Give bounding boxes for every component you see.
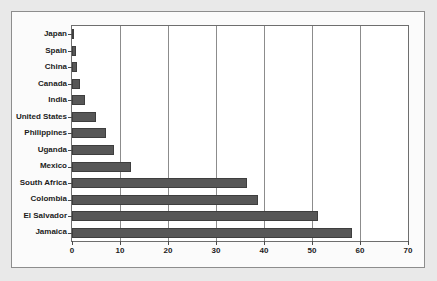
- bar: [72, 95, 85, 105]
- x-tick-label-50: 50: [308, 246, 317, 255]
- bar: [72, 228, 352, 238]
- category-label: United States: [16, 109, 67, 126]
- bar-row: El Salvador: [72, 208, 408, 225]
- category-label: El Salvador: [23, 208, 67, 225]
- bar-row: Philippines: [72, 125, 408, 142]
- bar: [72, 79, 80, 89]
- bar-row: South Africa: [72, 175, 408, 192]
- x-tick-label-60: 60: [356, 246, 365, 255]
- x-tick-label-10: 10: [116, 246, 125, 255]
- chart-figure: JapanSpainChinaCanadaIndiaUnited StatesP…: [11, 11, 425, 268]
- bar-row: China: [72, 59, 408, 76]
- bar-row: Canada: [72, 76, 408, 93]
- bar: [72, 62, 77, 72]
- x-tick-label-40: 40: [260, 246, 269, 255]
- bar: [72, 195, 258, 205]
- category-label: Japan: [44, 26, 67, 43]
- category-label: Philippines: [24, 125, 67, 142]
- x-tick-label-70: 70: [404, 246, 413, 255]
- bar: [72, 145, 114, 155]
- category-label: India: [48, 92, 67, 109]
- x-tick-20: [168, 241, 169, 245]
- category-label: Jamaica: [35, 224, 67, 241]
- category-label: Canada: [38, 76, 67, 93]
- bar-row: Colombia: [72, 191, 408, 208]
- bar-row: India: [72, 92, 408, 109]
- x-tick-50: [312, 241, 313, 245]
- x-tick-label-0: 0: [70, 246, 74, 255]
- category-label: South Africa: [20, 175, 67, 192]
- bar: [72, 211, 318, 221]
- bar-row: Jamaica: [72, 224, 408, 241]
- category-label: Colombia: [31, 191, 67, 208]
- bar-row: United States: [72, 109, 408, 126]
- category-label: China: [45, 59, 67, 76]
- x-tick-10: [120, 241, 121, 245]
- bar-row: Japan: [72, 26, 408, 43]
- bar: [72, 46, 76, 56]
- x-tick-70: [408, 241, 409, 245]
- bar-row: Spain: [72, 43, 408, 60]
- x-tick-label-30: 30: [212, 246, 221, 255]
- category-label: Mexico: [40, 158, 67, 175]
- bar: [72, 29, 74, 39]
- x-tick-40: [264, 241, 265, 245]
- bar: [72, 178, 247, 188]
- bar-row: Uganda: [72, 142, 408, 159]
- x-tick-label-20: 20: [164, 246, 173, 255]
- x-tick-60: [360, 241, 361, 245]
- category-label: Uganda: [38, 142, 67, 159]
- bar: [72, 162, 131, 172]
- x-tick-30: [216, 241, 217, 245]
- bar: [72, 128, 106, 138]
- x-tick-0: [72, 241, 73, 245]
- bars-layer: JapanSpainChinaCanadaIndiaUnited StatesP…: [72, 26, 408, 241]
- bar: [72, 112, 96, 122]
- plot-area: JapanSpainChinaCanadaIndiaUnited StatesP…: [71, 25, 409, 242]
- category-label: Spain: [45, 43, 67, 60]
- bar-row: Mexico: [72, 158, 408, 175]
